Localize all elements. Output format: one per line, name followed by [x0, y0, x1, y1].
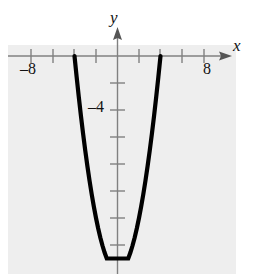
x-axis-label: x: [233, 36, 241, 56]
graph-canvas: [0, 0, 253, 274]
y-tick-label-neg4: –4: [88, 98, 104, 116]
x-axis: [8, 49, 232, 63]
y-axis-label: y: [110, 8, 118, 28]
x-tick-label-neg8: –8: [20, 60, 36, 78]
y-axis: [110, 27, 125, 274]
x-tick-label-8: 8: [203, 60, 211, 78]
graph-figure: y x –8 8 –4: [0, 0, 253, 274]
